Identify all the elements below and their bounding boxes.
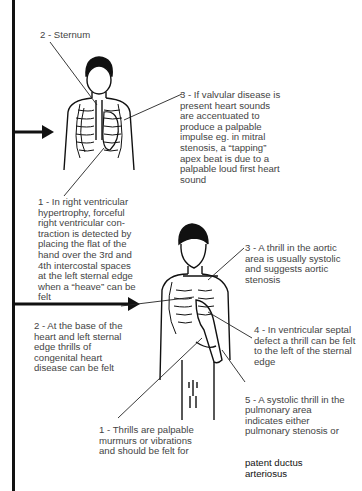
- label-thrills-definition: 1 - Thrills are palpable murmurs or vibr…: [99, 425, 194, 457]
- label-pulmonary-thrill: 5 - A systolic thrill in the pulmonary a…: [245, 384, 345, 479]
- label-right-ventricular-hypertrophy: 1 - In right ventricular hypertrophy, fo…: [38, 197, 136, 303]
- label-valvular-disease: 3 - If valvular disease is present heart…: [180, 90, 280, 185]
- label-pulmonary-thrill-main: 5 - A systolic thrill in the pulmonary a…: [245, 394, 345, 437]
- label-aortic-thrill: 3 - A thrill in the aortic area is usual…: [245, 243, 340, 285]
- torso-figure-2: [160, 224, 230, 420]
- label-pulmonary-thrill-pda: patent ductus arteriosus: [245, 457, 303, 479]
- label-base-thrills: 2 - At the base of the heart and left st…: [34, 321, 123, 374]
- label-sternum: 2 - Sternum: [40, 30, 90, 41]
- arrow-right-icon: [15, 125, 54, 139]
- torso-figure-1: [64, 57, 134, 170]
- label-vsd-thrill: 4 - In ventricular septal defect a thril…: [254, 325, 355, 367]
